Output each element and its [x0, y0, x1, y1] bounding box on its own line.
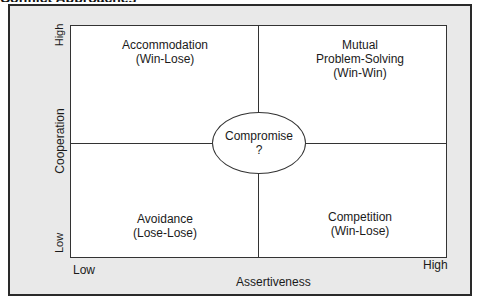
- y-axis-low-label: Low: [53, 225, 67, 261]
- quadrant-subtitle: (Win-Lose): [305, 224, 415, 238]
- quadrant-subtitle: (Lose-Lose): [110, 226, 220, 240]
- quadrant-title: Competition: [305, 210, 415, 224]
- quadrant-subtitle: (Win-Win): [300, 66, 420, 80]
- partial-heading: Conflict Approaches: [0, 0, 200, 2]
- quadrant-competition: Competition (Win-Lose): [305, 210, 415, 238]
- question-mark: ?: [256, 143, 263, 157]
- quadrant-mutual-problem-solving: Mutual Problem-Solving (Win-Win): [300, 38, 420, 80]
- x-axis-low-label: Low: [73, 263, 95, 277]
- quadrant-title-line2: Problem-Solving: [300, 52, 420, 66]
- quadrant-title: Accommodation: [110, 38, 220, 52]
- x-axis-label: Assertiveness: [236, 275, 311, 289]
- quadrant-subtitle: (Win-Lose): [110, 52, 220, 66]
- quadrant-title-line1: Mutual: [300, 38, 420, 52]
- quadrant-title: Avoidance: [110, 212, 220, 226]
- compromise-label: Compromise: [225, 129, 293, 143]
- quadrant-accommodation: Accommodation (Win-Lose): [110, 38, 220, 66]
- quadrant-avoidance: Avoidance (Lose-Lose): [110, 212, 220, 240]
- compromise-ellipse: Compromise ?: [212, 112, 306, 174]
- x-axis-high-label: High: [423, 258, 448, 272]
- y-axis-high-label: High: [53, 15, 67, 55]
- y-axis-label: Cooperation: [53, 101, 67, 181]
